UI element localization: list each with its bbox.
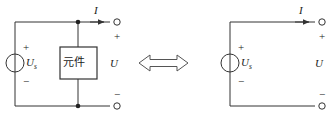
left-terminal-minus-label: −: [114, 89, 120, 100]
right-current-label: I: [299, 5, 303, 16]
right-source-minus-label: −: [238, 76, 244, 87]
element-box-label: 元件: [63, 57, 85, 68]
right-circuit-group: [221, 19, 325, 109]
right-terminal-plus-label: +: [319, 31, 325, 42]
left-voltage-label: U: [110, 58, 118, 69]
left-top-junction-dot: [76, 20, 81, 25]
right-terminal-bottom: [319, 103, 325, 109]
left-source-plus-label: +: [23, 42, 29, 53]
circuit-diagram: + Us − 元件 I + U − + Us − I + U −: [0, 0, 336, 122]
right-voltage-label: U: [315, 58, 323, 69]
right-terminal-minus-label: −: [319, 89, 325, 100]
left-source-minus-label: −: [23, 76, 29, 87]
left-terminal-bottom: [114, 103, 120, 109]
right-source-label-main: U: [241, 56, 249, 68]
left-source-label: Us: [26, 57, 37, 71]
left-terminal-plus-label: +: [114, 31, 120, 42]
right-source-plus-label: +: [238, 42, 244, 53]
circuit-schematic-svg: [0, 0, 336, 122]
left-current-label: I: [94, 5, 98, 16]
left-terminal-top: [114, 19, 120, 25]
left-bottom-junction-dot: [76, 104, 81, 109]
left-source-label-sub: s: [34, 62, 37, 71]
right-source-label: Us: [241, 57, 252, 71]
right-terminal-top: [319, 19, 325, 25]
right-source-label-sub: s: [249, 62, 252, 71]
equivalence-arrow-group: [139, 55, 188, 71]
left-source-label-main: U: [26, 56, 34, 68]
double-headed-arrow-icon: [139, 55, 188, 71]
